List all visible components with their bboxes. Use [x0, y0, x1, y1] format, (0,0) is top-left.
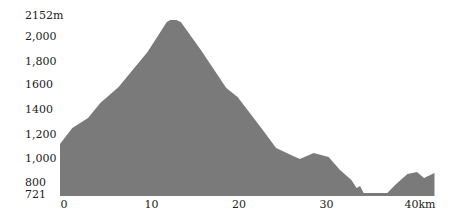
x-tick-label: 40km	[404, 199, 435, 211]
x-tick-label: 0	[61, 199, 68, 211]
y-tick-label: 1,800	[25, 56, 57, 68]
y-tick-label: 1,200	[25, 129, 57, 141]
x-tick-label: 30	[320, 199, 334, 211]
y-tick-label: 1600	[25, 79, 53, 91]
x-tick-label: 20	[232, 199, 246, 211]
y-tick-label: 1,000	[25, 153, 57, 165]
y-tick-label: 721	[25, 189, 46, 201]
y-tick-label: 1400	[25, 104, 53, 116]
elevation-area-plot	[0, 0, 456, 223]
elevation-area	[60, 20, 435, 196]
elevation-profile-chart: 2152m2,0001,800160014001,2001,000800721 …	[0, 0, 456, 223]
y-tick-label: 2,000	[25, 31, 57, 43]
x-tick-label: 10	[145, 199, 159, 211]
y-tick-label: 2152m	[25, 10, 63, 22]
